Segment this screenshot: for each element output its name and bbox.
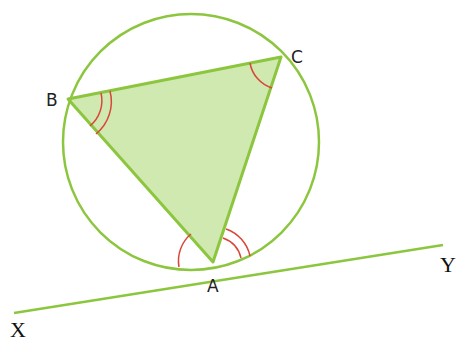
angle-mark-a-left	[178, 234, 191, 267]
label-y: Y	[440, 252, 456, 277]
angle-mark-a-right-outer	[226, 229, 250, 256]
label-a: A	[207, 276, 219, 296]
angle-mark-a-right-inner	[223, 238, 241, 258]
label-b: B	[46, 90, 58, 110]
label-c: C	[291, 47, 303, 67]
label-x: X	[10, 317, 26, 342]
circle-theorem-diagram: A B C X Y	[0, 0, 466, 353]
tangent-line-xy	[14, 245, 443, 313]
